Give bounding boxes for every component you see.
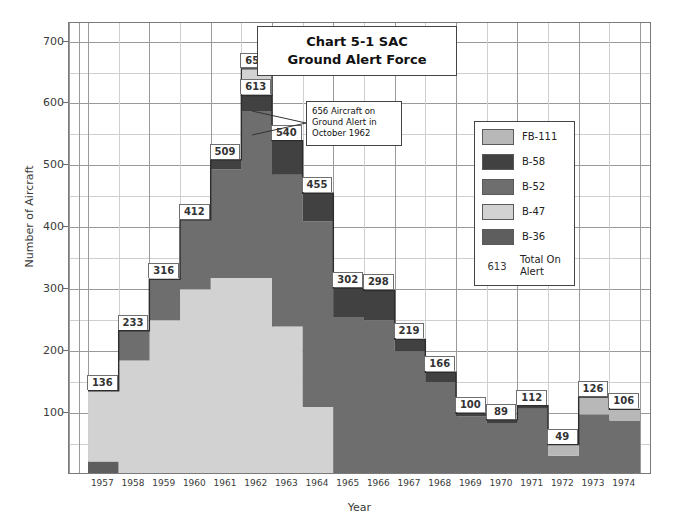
x-axis-tick-label: 1957 — [91, 478, 114, 488]
legend-item-b-47[interactable]: B-47 — [482, 204, 568, 220]
legend-item-total-on-alert: 613Total On Alert — [482, 254, 568, 278]
data-label: 233 — [118, 315, 149, 330]
x-axis-tick-label: 1964 — [306, 478, 329, 488]
data-label: 106 — [608, 393, 639, 408]
legend: FB-111B-58B-52B-47B-36613Total On Alert — [474, 121, 575, 286]
legend-swatch-icon — [482, 179, 514, 195]
x-axis-tick-label: 1961 — [214, 478, 237, 488]
legend-item-b-36[interactable]: B-36 — [482, 229, 568, 245]
x-axis-tick-label: 1958 — [122, 478, 145, 488]
data-label: 316 — [148, 263, 179, 278]
x-axis-tick-label: 1965 — [336, 478, 359, 488]
x-axis-tick-label: 1959 — [152, 478, 175, 488]
legend-item-label: B-47 — [522, 206, 545, 218]
legend-item-label: B-58 — [522, 156, 545, 168]
x-axis-tick-label: 1974 — [612, 478, 635, 488]
data-label: 136 — [87, 375, 118, 390]
x-axis-tick-label: 1963 — [275, 478, 298, 488]
legend-swatch-icon — [482, 229, 514, 245]
legend-item-b-58[interactable]: B-58 — [482, 154, 568, 170]
data-label: 49 — [547, 429, 578, 444]
data-label: 112 — [516, 390, 547, 405]
data-label: 298 — [363, 274, 394, 289]
data-label: 166 — [424, 356, 455, 371]
chart-title-box: Chart 5-1 SAC Ground Alert Force — [257, 26, 457, 76]
legend-item-label: FB-111 — [522, 131, 557, 143]
legend-item-label: B-36 — [522, 231, 545, 243]
legend-item-fb-111[interactable]: FB-111 — [482, 129, 568, 145]
x-axis-tick-label: 1970 — [490, 478, 513, 488]
legend-swatch-icon — [482, 154, 514, 170]
legend-item-b-52[interactable]: B-52 — [482, 179, 568, 195]
data-label: 89 — [486, 404, 517, 419]
x-axis-tick-label: 1972 — [551, 478, 574, 488]
chart-title-line2: Ground Alert Force — [262, 51, 452, 69]
x-axis-tick-label: 1967 — [398, 478, 421, 488]
data-label: 412 — [179, 204, 210, 219]
x-axis-tick-label: 1966 — [367, 478, 390, 488]
data-label: 613 — [240, 79, 271, 94]
x-axis-ticks: 1957195819591960196119621963196419651966… — [68, 478, 651, 494]
legend-total-number: 613 — [482, 261, 512, 272]
x-axis-tick-label: 1973 — [582, 478, 605, 488]
data-label: 455 — [302, 177, 333, 192]
y-axis-tick-marks — [0, 22, 68, 474]
x-axis-tick-label: 1971 — [520, 478, 543, 488]
legend-item-label: B-52 — [522, 181, 545, 193]
x-axis-tick-label: 1962 — [244, 478, 267, 488]
x-axis-tick-label: 1968 — [428, 478, 451, 488]
data-label: 219 — [394, 323, 425, 338]
chart-container: Number of Aircraft 100200300400500600700… — [0, 0, 673, 529]
legend-total-label: Total On Alert — [520, 254, 566, 278]
x-axis-tick-label: 1960 — [183, 478, 206, 488]
x-axis-tick-label: 1969 — [459, 478, 482, 488]
data-label: 100 — [455, 397, 486, 412]
legend-swatch-icon — [482, 129, 514, 145]
legend-swatch-icon — [482, 204, 514, 220]
data-label: 126 — [578, 381, 609, 396]
x-axis-label: Year — [68, 501, 651, 514]
annotation-callout: 656 Aircraft on Ground Alert in October … — [306, 101, 402, 146]
chart-title-line1: Chart 5-1 SAC — [262, 33, 452, 51]
data-label: 509 — [210, 144, 241, 159]
data-label: 302 — [332, 272, 363, 287]
